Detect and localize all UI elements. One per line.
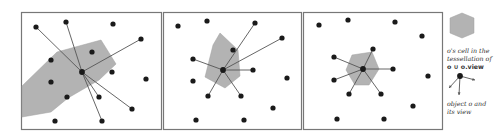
caption-line: o ∪ o.view [447,63,492,71]
object-point [334,116,339,121]
object-point [331,54,336,59]
object-point [190,78,195,83]
caption-line: o's cell in the [447,47,492,55]
object-o-point [220,67,226,73]
object-point [48,79,53,84]
caption-line: its view [447,108,486,116]
object-point [96,94,101,99]
object-point [193,117,198,122]
caption-line: tessellation of [447,55,492,63]
object-point [390,66,395,71]
object-point [381,116,386,121]
object-o-point [79,69,85,75]
object-point [99,118,104,123]
object-point [52,118,57,123]
object-point [33,24,38,29]
object-point [419,33,424,38]
object-point [370,46,375,51]
object-point [230,47,235,52]
object-point [110,21,115,26]
object-point [204,18,209,23]
object-point [89,49,94,54]
object-point [425,73,430,78]
object-point [48,57,53,62]
object-point [331,77,336,82]
object-point [279,35,284,40]
object-point [346,91,351,96]
cell-legend-icon [450,13,474,38]
voronoi-cell [22,40,116,117]
arrowhead-icon [458,92,461,95]
voronoi-cell [205,33,240,88]
object-legend-icon [457,73,463,79]
object-point [410,103,415,108]
object-point [63,19,68,24]
object-point [190,56,195,61]
object-point [345,17,350,22]
tessellation-diagram [0,0,498,134]
object-point [109,69,114,74]
object-point [316,22,321,27]
object-point [284,75,289,80]
object-point [378,91,383,96]
object-point [241,117,246,122]
object-point [392,19,397,24]
caption-line: object o and [447,100,486,108]
object-point [270,105,275,110]
object-point [175,23,180,28]
object-point [129,106,134,111]
object-point [143,76,148,81]
object-point [238,93,243,98]
object-point [252,20,257,25]
legend-cell-caption: o's cell in the tessellation of o ∪ o.vi… [447,47,492,71]
object-point [250,67,255,72]
legend-object-caption: object o and its view [447,100,486,116]
object-point [205,93,210,98]
object-point [138,36,143,41]
object-point [64,94,69,99]
object-o-point [360,66,366,72]
